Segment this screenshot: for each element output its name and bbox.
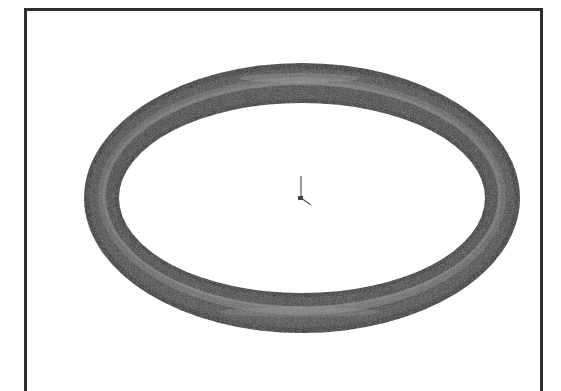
model-scene[interactable] xyxy=(0,0,561,378)
